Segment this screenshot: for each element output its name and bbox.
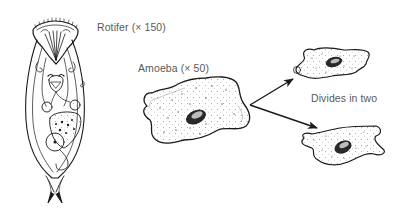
daughter-amoeba-bottom [302,126,385,165]
rotifer-toes [48,192,62,203]
division-arrows [250,79,317,128]
daughter-amoeba-top [294,48,370,79]
rotifer-gland-left [42,102,52,112]
amoeba-illustration [144,77,250,143]
diagram-canvas [0,0,401,213]
rotifer-gland-right [70,100,80,110]
arrow-to-top-daughter [250,79,293,105]
divides-label: Divides in two [311,92,377,104]
arrow-to-bottom-daughter [250,105,317,128]
rotifer-label: Rotifer (× 150) [97,21,166,33]
rotifer-illustration [26,18,85,203]
amoeba-label: Amoeba (× 50) [138,62,209,74]
rotifer-mastax [49,76,63,93]
